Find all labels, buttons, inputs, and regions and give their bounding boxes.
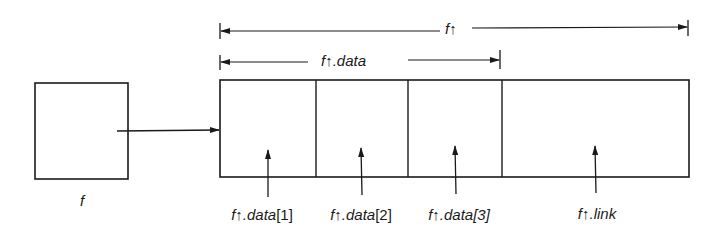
field-arrow-data3 [455,146,456,194]
field-label-prefix: f↑. [428,206,444,223]
pointer-arrow [117,130,219,131]
field-label-index: [3] [473,206,490,223]
record-span-arrow-right [472,27,687,28]
field-label-index: [2] [375,206,392,223]
field-label-main: data [247,206,276,223]
field-label-main: data [444,206,473,223]
field-label-prefix: f↑. [231,206,247,223]
field-label-index: [1] [276,206,293,223]
field-label-prefix: f↑. [578,205,594,222]
pointer-var-label: f [80,193,84,209]
field-label-data3: f↑.data[3] [428,207,490,223]
field-arrow-link [595,146,596,193]
field-label-data1: f↑.data[1] [231,207,293,223]
field-label-data2: f↑.data[2] [330,207,392,223]
field-label-main: data [346,206,375,223]
pointer-box-f [35,83,128,179]
field-label-main: link [594,205,617,222]
field-arrow-data2 [361,148,362,195]
record-span-label: f↑ [442,21,460,37]
data-span-label: f↑.data [318,53,369,69]
field-label-link: f↑.link [578,206,616,222]
field-label-prefix: f↑. [330,206,346,223]
record-box [220,80,689,177]
